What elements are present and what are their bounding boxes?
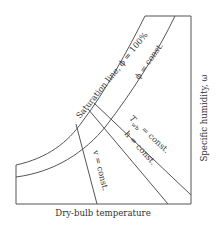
v-const-line bbox=[76, 124, 97, 204]
v-const-label: v = const. bbox=[91, 148, 111, 192]
x-axis-label: Dry-bulb temperature bbox=[55, 208, 150, 218]
psychrometric-chart: Saturation line, ϕ = 100% ϕ = const. Twb… bbox=[0, 0, 219, 226]
y-axis-label: Specific humidity, ω bbox=[199, 74, 209, 161]
